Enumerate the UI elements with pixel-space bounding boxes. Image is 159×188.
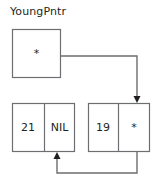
head-pointer-glyph: * — [34, 47, 40, 60]
node-19-data-cell: 19 — [88, 103, 118, 152]
edge-node-19-to-node-21 — [57, 152, 137, 173]
node-19-data-value: 19 — [96, 121, 110, 134]
linked-list-diagram: YoungPntr * 21 NIL 19 — [0, 0, 159, 188]
edge-head-to-node-19-arrowhead — [134, 96, 141, 103]
node-21-data-value: 21 — [21, 121, 35, 134]
node-21-next-cell: NIL — [44, 103, 75, 152]
head-pointer-value: * — [12, 29, 61, 78]
node-19-next-cell: * — [118, 103, 150, 152]
node-21-data-cell: 21 — [12, 103, 44, 152]
node-21-next-value: NIL — [51, 121, 69, 134]
edge-node-19-to-node-21-arrowhead — [54, 152, 61, 159]
node-19-next-glyph: * — [131, 121, 137, 134]
edge-head-to-node-19 — [61, 56, 137, 96]
